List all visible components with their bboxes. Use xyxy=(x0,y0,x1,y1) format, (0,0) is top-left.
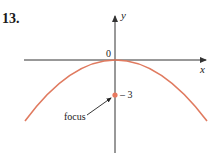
focus-value-label: – 3 xyxy=(119,89,133,100)
focus-label: focus xyxy=(64,111,86,122)
y-axis-label: y xyxy=(120,9,126,21)
parabola-graph: y x 0 – 3 focus xyxy=(0,0,223,157)
focus-arrow xyxy=(87,98,111,115)
origin-label: 0 xyxy=(106,48,111,59)
parabola-curve xyxy=(25,60,207,121)
x-axis-label: x xyxy=(199,63,205,75)
focus-point xyxy=(112,92,117,97)
